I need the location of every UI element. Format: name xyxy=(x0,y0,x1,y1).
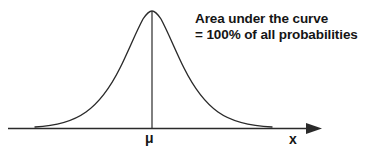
area-annotation: Area under the curve = 100% of all proba… xyxy=(195,11,358,43)
area-annotation-line-2: = 100% of all probabilities xyxy=(195,27,358,43)
area-annotation-line-1: Area under the curve xyxy=(195,11,358,27)
x-axis-label: x xyxy=(289,131,297,147)
mean-axis-label: μ xyxy=(145,130,154,146)
